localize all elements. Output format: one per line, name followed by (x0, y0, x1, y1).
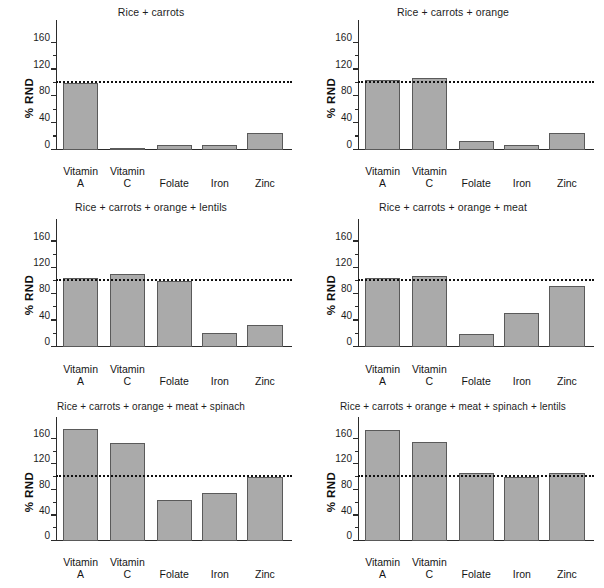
y-tick-label: 0 (346, 140, 352, 150)
panel-title: Rice + carrots + orange + lentils (0, 201, 302, 213)
reference-line-100 (358, 81, 594, 83)
panel-title: Rice + carrots + orange (302, 6, 604, 18)
y-axis-label: % RND (325, 77, 337, 117)
bar (63, 429, 98, 541)
x-tick-label: Zinc (232, 376, 298, 387)
bar (504, 477, 539, 541)
plot-area: 04080120160 (56, 423, 290, 541)
y-tick-label: 120 (335, 258, 352, 268)
reference-line-100 (56, 475, 292, 477)
bar (365, 278, 400, 347)
x-axis-labels: Vitamin AVitamin CFolateIronZinc (56, 548, 290, 580)
bar (202, 493, 237, 541)
y-tick-label: 80 (39, 480, 50, 490)
bar (504, 313, 539, 347)
bar (365, 80, 400, 150)
x-axis-labels: Vitamin AVitamin CFolateIronZinc (56, 355, 290, 387)
bar (202, 145, 237, 150)
x-tick-label: Zinc (232, 569, 298, 580)
y-tick-label: 160 (33, 33, 50, 43)
plot-area: 04080120160 (358, 423, 592, 541)
y-axis-label: % RND (23, 275, 35, 315)
x-tick-label: Zinc (534, 376, 600, 387)
y-tick-label: 80 (341, 284, 352, 294)
y-tick-label: 40 (39, 506, 50, 516)
plot-area: 04080120160 (56, 26, 290, 150)
y-tick-label: 160 (335, 33, 352, 43)
reference-line-100 (56, 81, 292, 83)
y-tick-label: 120 (33, 60, 50, 70)
bar (412, 442, 447, 541)
reference-line-100 (56, 279, 292, 281)
bar-group (56, 423, 290, 541)
y-tick-label: 160 (33, 232, 50, 242)
bar (110, 443, 145, 541)
bar (549, 286, 584, 347)
bar (247, 325, 282, 347)
x-axis-labels: Vitamin AVitamin CFolateIronZinc (358, 157, 592, 189)
y-tick-label: 120 (33, 454, 50, 464)
x-tick-label: Zinc (534, 178, 600, 189)
panel-title: Rice + carrots + orange + meat (302, 201, 604, 213)
x-tick-label: Zinc (534, 569, 600, 580)
plot-area: 04080120160 (358, 225, 592, 347)
bar-group (358, 26, 592, 150)
y-tick-label: 120 (33, 258, 50, 268)
bar-group (56, 26, 290, 150)
y-tick-label: 0 (44, 140, 50, 150)
y-tick-label: 80 (341, 86, 352, 96)
bar (157, 500, 192, 541)
bar (549, 133, 584, 150)
chart-panel-2: Rice + carrots + orange% RND04080120160V… (302, 0, 604, 195)
y-axis-label: % RND (325, 275, 337, 315)
bar (365, 430, 400, 541)
y-tick-label: 120 (335, 60, 352, 70)
y-tick-label: 160 (335, 429, 352, 439)
bar (504, 145, 539, 150)
bar (63, 278, 98, 347)
plot-area: 04080120160 (358, 26, 592, 150)
y-tick-label: 120 (335, 454, 352, 464)
chart-panel-5: Rice + carrots + orange + meat + spinach… (0, 395, 302, 588)
bar-group (358, 423, 592, 541)
chart-panel-3: Rice + carrots + orange + lentils% RND04… (0, 195, 302, 395)
chart-panel-6: Rice + carrots + orange + meat + spinach… (302, 395, 604, 588)
bar (110, 148, 145, 150)
x-axis-labels: Vitamin AVitamin CFolateIronZinc (358, 548, 592, 580)
panel-title: Rice + carrots + orange + meat + spinach… (302, 401, 604, 412)
y-tick-label: 160 (335, 232, 352, 242)
x-tick-label: Zinc (232, 178, 298, 189)
x-axis-labels: Vitamin AVitamin CFolateIronZinc (358, 355, 592, 387)
bar (63, 83, 98, 150)
y-tick-label: 0 (346, 531, 352, 541)
y-axis-label: % RND (23, 77, 35, 117)
y-tick-label: 80 (39, 284, 50, 294)
y-tick-label: 80 (341, 480, 352, 490)
bar (202, 333, 237, 347)
y-tick-label: 0 (44, 337, 50, 347)
bar (459, 473, 494, 541)
bar-group (358, 225, 592, 347)
y-tick-label: 160 (33, 429, 50, 439)
y-tick-label: 80 (39, 86, 50, 96)
y-tick-label: 40 (39, 311, 50, 321)
y-tick-label: 40 (341, 311, 352, 321)
y-axis-label: % RND (325, 471, 337, 511)
y-tick-label: 0 (346, 337, 352, 347)
bar (157, 145, 192, 150)
bar (549, 473, 584, 541)
chart-panel-1: Rice + carrots% RND04080120160Vitamin AV… (0, 0, 302, 195)
reference-line-100 (358, 279, 594, 281)
y-tick-label: 40 (39, 113, 50, 123)
bar (459, 334, 494, 347)
x-axis-labels: Vitamin AVitamin CFolateIronZinc (56, 157, 290, 189)
y-tick-label: 40 (341, 506, 352, 516)
bar (247, 477, 282, 541)
bar (110, 274, 145, 347)
bar (412, 78, 447, 150)
bar (412, 276, 447, 347)
bar-group (56, 225, 290, 347)
bar (459, 141, 494, 150)
bar (247, 133, 282, 150)
y-tick-label: 0 (44, 531, 50, 541)
